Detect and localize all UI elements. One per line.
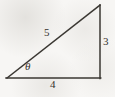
triangle-graphic [0, 0, 115, 97]
hypotenuse-label: 5 [44, 27, 50, 38]
triangle-figure: 5 3 4 θ [0, 0, 115, 97]
angle-theta-label: θ [25, 61, 30, 72]
adjacent-side-label: 4 [50, 79, 56, 90]
hypotenuse-line [7, 5, 100, 78]
opposite-side-label: 3 [103, 36, 109, 47]
